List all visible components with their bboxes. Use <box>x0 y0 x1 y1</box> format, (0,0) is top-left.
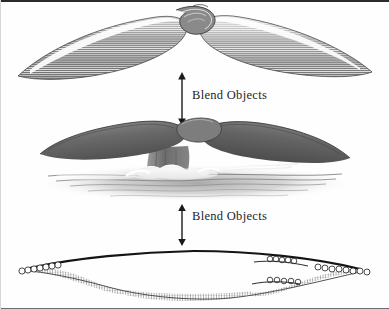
upper-key-path <box>30 251 360 269</box>
rendered-whale-tail-artwork <box>30 110 360 206</box>
source-paths-artwork <box>8 238 382 304</box>
blend-label-top: Blend Objects <box>192 88 267 103</box>
right-fluke <box>202 122 350 163</box>
frame-top-rule <box>0 0 390 2</box>
right-fluke-blend <box>188 4 382 86</box>
blended-strokes-artwork <box>8 4 382 86</box>
blend-label-bottom: Blend Objects <box>192 209 267 224</box>
figure-canvas: Blend Objects <box>0 0 390 309</box>
tail-notch <box>177 118 222 142</box>
frame-left-rule <box>0 0 1 309</box>
